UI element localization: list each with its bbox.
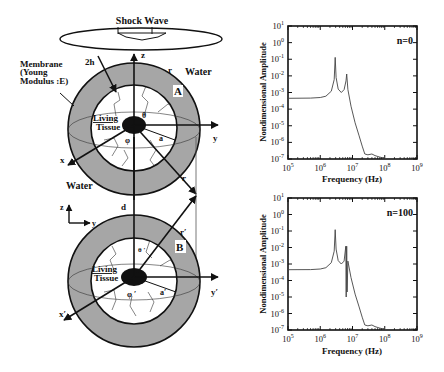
tissue-label-b-2: Tissue bbox=[94, 273, 118, 283]
plot-n0-title: n=0 bbox=[397, 35, 413, 46]
plot-n100-x-tick-labels: 105106107108109 bbox=[282, 333, 423, 344]
svg-text:10-2: 10-2 bbox=[271, 70, 285, 81]
water-label-top: Water bbox=[185, 66, 212, 77]
svg-text:101: 101 bbox=[273, 20, 285, 31]
r-label-a: r bbox=[182, 173, 186, 183]
phi-label-b: φ ′ bbox=[127, 290, 136, 299]
svg-text:10-3: 10-3 bbox=[271, 87, 285, 98]
r-prime-label: r′ bbox=[180, 227, 187, 237]
svg-text:100: 100 bbox=[273, 209, 285, 220]
y-axis-label: y bbox=[213, 133, 218, 143]
y-prime-label: y′ bbox=[211, 287, 218, 297]
tissue-label-a-2: Tissue bbox=[96, 122, 120, 132]
svg-text:10-3: 10-3 bbox=[271, 258, 285, 269]
shock-wave-label: Shock Wave bbox=[116, 15, 169, 26]
svg-text:105: 105 bbox=[282, 162, 294, 173]
sphere-b-tag: B bbox=[176, 241, 184, 253]
plot-n100-ylabel: Nondimensional Amplitude bbox=[258, 214, 268, 314]
membrane-label: Membrane (Young Modulus :E) bbox=[20, 59, 68, 86]
z-axis-label: z bbox=[141, 50, 145, 60]
svg-text:108: 108 bbox=[379, 162, 391, 173]
svg-text:10-4: 10-4 bbox=[271, 103, 285, 114]
plot-n100-title: n=100 bbox=[387, 207, 413, 218]
plot-n0-xlabel: Frequency (Hz) bbox=[322, 174, 382, 184]
svg-text:10-5: 10-5 bbox=[271, 120, 285, 131]
svg-text:10-5: 10-5 bbox=[271, 291, 285, 302]
svg-text:10-4: 10-4 bbox=[271, 275, 285, 286]
sphere-a-tag: A bbox=[174, 85, 182, 97]
r-label-top: r bbox=[168, 65, 172, 75]
theta-label-b: θ ′ bbox=[138, 246, 145, 254]
theta-label-a: θ bbox=[142, 111, 146, 120]
svg-text:101: 101 bbox=[273, 192, 285, 203]
plot-n100: 10110010-110-210-310-410-510-610-7 10510… bbox=[258, 192, 423, 356]
phi-label-a: φ bbox=[125, 136, 130, 145]
svg-text:108: 108 bbox=[379, 333, 391, 344]
svg-text:10-6: 10-6 bbox=[271, 136, 285, 147]
distance-label: d bbox=[121, 202, 126, 212]
figure: Shock Wave z y x 2h r Water A bbox=[0, 0, 444, 372]
plot-n0-x-tick-labels: 105106107108109 bbox=[282, 162, 423, 173]
plot-n0-y-tick-labels: 10110010-110-210-310-410-510-610-7 bbox=[271, 20, 285, 164]
svg-text:105: 105 bbox=[282, 333, 294, 344]
x-prime-label: x′ bbox=[59, 309, 66, 319]
svg-text:Modulus :E): Modulus :E) bbox=[20, 76, 68, 86]
svg-text:10-6: 10-6 bbox=[271, 308, 285, 319]
svg-text:10-1: 10-1 bbox=[271, 53, 285, 64]
svg-text:107: 107 bbox=[347, 333, 359, 344]
svg-text:10-1: 10-1 bbox=[271, 225, 285, 236]
sphere-a: z y x 2h r Water A Living Tissue θ φ a r bbox=[60, 50, 218, 200]
water-label-bottom: Water bbox=[66, 180, 93, 191]
svg-text:z: z bbox=[60, 203, 64, 212]
svg-text:109: 109 bbox=[411, 333, 423, 344]
svg-text:109: 109 bbox=[411, 162, 423, 173]
svg-text:106: 106 bbox=[315, 333, 327, 344]
radius-label-b: a′ bbox=[160, 288, 166, 297]
svg-text:100: 100 bbox=[273, 37, 285, 48]
shock-wave: Shock Wave bbox=[60, 15, 222, 50]
radius-label-a: a bbox=[159, 134, 163, 143]
svg-text:10-2: 10-2 bbox=[271, 242, 285, 253]
svg-text:106: 106 bbox=[315, 162, 327, 173]
reference-frame: z y bbox=[60, 203, 96, 228]
thickness-label: 2h bbox=[85, 57, 95, 67]
plot-n100-y-tick-labels: 10110010-110-210-310-410-510-610-7 bbox=[271, 192, 285, 335]
plot-n0-ylabel: Nondimensional Amplitude bbox=[258, 42, 268, 142]
plot-n0: 10110010-110-210-310-410-510-610-7 10510… bbox=[258, 20, 423, 184]
plot-n100-xlabel: Frequency (Hz) bbox=[322, 346, 382, 356]
x-axis-label: x bbox=[60, 155, 65, 165]
svg-text:107: 107 bbox=[347, 162, 359, 173]
